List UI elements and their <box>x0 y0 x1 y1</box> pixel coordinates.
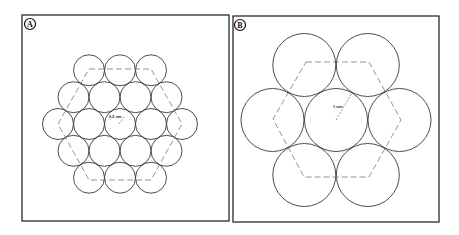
panel-a-circle <box>151 135 182 166</box>
panel-a-circle <box>120 82 151 113</box>
panel-a: A 0.5 nm <box>22 15 229 221</box>
panel-b-hexagon <box>273 62 401 177</box>
panel-a-badge: A <box>25 19 36 30</box>
panel-a-circle <box>74 55 105 86</box>
panel-a-radius-label: 0.5 nm <box>109 114 122 119</box>
panel-b-circle <box>241 89 304 152</box>
panel-b-circle <box>368 89 431 152</box>
figure: A 0.5 nm B 1 nm <box>0 0 459 235</box>
panel-a-circle <box>120 135 151 166</box>
panel-a-circle <box>89 135 120 166</box>
panel-a-circle <box>136 109 167 140</box>
panel-a-circle <box>105 162 136 193</box>
panel-a-frame <box>22 15 229 221</box>
panel-a-circles <box>43 55 198 193</box>
panel-b-radius-label: 1 nm <box>333 104 343 109</box>
panel-b-badge: B <box>235 20 246 31</box>
panel-b-frame <box>233 16 439 222</box>
panel-b-circle <box>336 144 399 207</box>
panel-a-badge-label: A <box>27 20 33 29</box>
panel-b-circle <box>273 144 336 207</box>
panel-a-circle <box>74 109 105 140</box>
panel-a-circle <box>74 162 105 193</box>
panel-a-circle <box>89 82 120 113</box>
panel-a-circle <box>167 109 198 140</box>
panel-b: B 1 nm <box>233 16 439 222</box>
panel-a-circle <box>58 135 89 166</box>
panel-b-circle <box>336 34 399 97</box>
panel-a-circle <box>136 162 167 193</box>
panel-a-circle <box>105 55 136 86</box>
panel-a-circle <box>136 55 167 86</box>
panel-b-badge-label: B <box>237 21 243 30</box>
